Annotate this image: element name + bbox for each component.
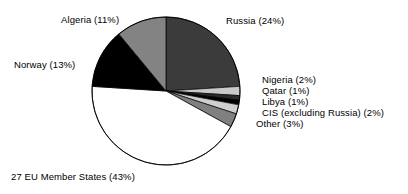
- right-label-group: Nigeria (2%) Qatar (1%) Libya (1%) CIS (…: [256, 74, 384, 129]
- slice-label-russia: Russia (24%): [226, 15, 284, 26]
- slice-label-libya: Libya (1%): [256, 96, 384, 107]
- pie-slice: [166, 17, 240, 91]
- slice-label-other: Other (3%): [256, 118, 384, 129]
- slice-label-nigeria: Nigeria (2%): [256, 74, 384, 85]
- slice-label-eu-member-states: 27 EU Member States (43%): [11, 171, 135, 182]
- pie-slices: [92, 17, 240, 165]
- pie-chart: Algeria (11%) Russia (24%) Norway (13%) …: [0, 0, 408, 194]
- slice-label-norway: Norway (13%): [14, 59, 75, 70]
- slice-label-cis: CIS (excluding Russia) (2%): [256, 107, 384, 118]
- slice-label-algeria: Algeria (11%): [61, 14, 119, 25]
- slice-label-qatar: Qatar (1%): [256, 85, 384, 96]
